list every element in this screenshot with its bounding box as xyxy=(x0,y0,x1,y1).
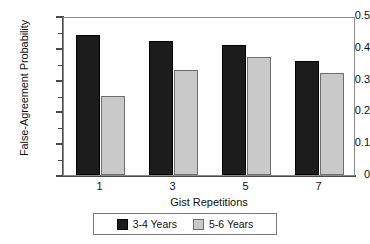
bar-3-4-years-rep-7 xyxy=(295,61,319,175)
bar-5-6-years-rep-5 xyxy=(247,57,271,175)
x-axis-label: Gist Repetitions xyxy=(63,196,355,208)
bar-chart-figure: False-Agreement Probability 00.10.20.30.… xyxy=(0,0,370,244)
chart-legend: 3-4 Years5-6 Years xyxy=(93,213,277,235)
legend-entry-2: 5-6 Years xyxy=(193,218,253,230)
legend-label: 3-4 Years xyxy=(133,218,177,230)
bar-3-4-years-rep-3 xyxy=(149,41,173,175)
bar-3-4-years-rep-5 xyxy=(222,45,246,175)
x-tick-label: 3 xyxy=(153,180,193,192)
legend-label: 5-6 Years xyxy=(209,218,253,230)
bar-5-6-years-rep-3 xyxy=(174,70,198,175)
bar-5-6-years-rep-7 xyxy=(320,73,344,175)
x-tick-label: 1 xyxy=(80,180,120,192)
plot-area xyxy=(63,17,355,176)
x-tick-label: 7 xyxy=(299,180,339,192)
legend-swatch-icon xyxy=(193,219,204,230)
legend-swatch-icon xyxy=(117,219,128,230)
bar-3-4-years-rep-1 xyxy=(76,35,100,175)
legend-entry-1: 3-4 Years xyxy=(117,218,177,230)
y-axis-label: False-Agreement Probability xyxy=(18,0,30,178)
bar-5-6-years-rep-1 xyxy=(101,96,125,176)
x-tick-label: 5 xyxy=(226,180,266,192)
